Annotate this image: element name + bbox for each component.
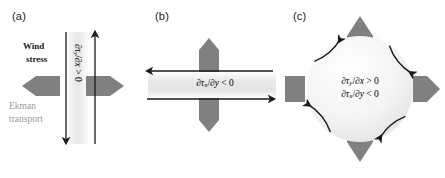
equation-relation-value: > 0	[366, 76, 378, 86]
equation-denominator: ∂y	[210, 78, 219, 88]
ekman-transport-arrow-down	[199, 98, 219, 132]
panel-c-equation-1: ∂τy/∂x > 0	[285, 76, 435, 87]
ekman-transport-label-line2: transport	[9, 114, 43, 126]
panel-b: (b)	[145, 0, 285, 178]
panel-a-graphics	[0, 0, 145, 178]
panel-b-equation: ∂τx/∂y < 0	[145, 78, 285, 89]
equation-denominator: ∂y	[355, 89, 364, 99]
equation-relation-value: < 0	[366, 89, 378, 99]
ekman-transport-arrow-up	[199, 38, 219, 72]
equation-denominator: ∂x	[355, 76, 364, 86]
equation-relation-value: > 0	[73, 69, 83, 81]
ekman-transport-figure: (a)	[0, 0, 445, 178]
ekman-transport-arrow-left	[22, 76, 60, 96]
wind-stress-label-line1: Wind	[23, 41, 44, 52]
panel-a-equation: ∂τy/∂x > 0	[72, 44, 83, 82]
panel-c-equation-2: ∂τx/∂y < 0	[285, 89, 435, 100]
panel-b-graphics	[145, 0, 285, 178]
ekman-transport-label-line1: Ekman	[9, 101, 36, 113]
equation-denominator: ∂x	[73, 58, 83, 67]
equation-numerator: ∂τ	[73, 44, 83, 52]
panel-a: (a)	[0, 0, 145, 178]
ekman-transport-arrow-right	[86, 76, 124, 96]
equation-relation-value: < 0	[221, 78, 233, 88]
panel-c: (c)	[285, 0, 445, 178]
wind-stress-label-line2: stress	[26, 54, 47, 65]
